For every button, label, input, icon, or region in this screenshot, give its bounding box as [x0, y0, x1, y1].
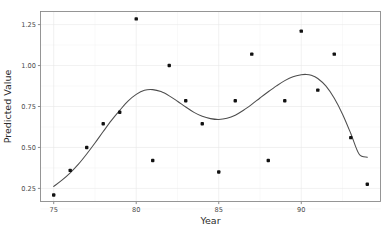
data-point: [168, 64, 171, 67]
data-point: [283, 99, 286, 102]
data-point: [217, 170, 220, 173]
data-point: [366, 183, 369, 186]
data-point: [349, 136, 352, 139]
data-point: [69, 169, 72, 172]
x-tick-label: 80: [132, 206, 140, 214]
data-point: [135, 17, 138, 20]
x-tick-label: 85: [215, 206, 223, 214]
y-tick-label: 1.00: [21, 62, 36, 70]
x-axis-title: Year: [199, 215, 220, 226]
data-point: [201, 122, 204, 125]
scatter-plot: 0.250.500.751.001.25 75808590 Year Predi…: [0, 0, 389, 236]
data-point: [85, 146, 88, 149]
data-point: [333, 52, 336, 55]
data-point: [300, 29, 303, 32]
x-tick-label: 75: [50, 206, 58, 214]
data-point: [118, 111, 121, 114]
data-point: [151, 159, 154, 162]
x-tick-label: 90: [297, 206, 305, 214]
y-axis-title: Predicted Value: [2, 70, 13, 144]
y-tick-label: 0.25: [21, 185, 36, 193]
data-point: [316, 88, 319, 91]
y-tick-label: 1.25: [21, 21, 36, 29]
data-point: [52, 193, 55, 196]
data-point: [267, 159, 270, 162]
y-tick-label: 0.75: [21, 103, 36, 111]
data-point: [234, 99, 237, 102]
data-point: [250, 52, 253, 55]
data-point: [184, 99, 187, 102]
y-tick-label: 0.50: [21, 144, 36, 152]
chart-container: 0.250.500.751.001.25 75808590 Year Predi…: [0, 0, 389, 236]
data-point: [102, 122, 105, 125]
